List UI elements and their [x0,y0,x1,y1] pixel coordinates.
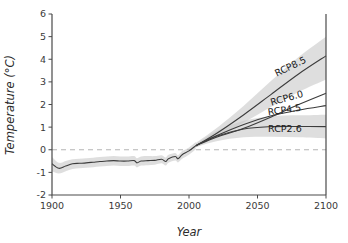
uncertainty-band-historical [52,142,196,173]
y-tick-label: 1 [40,122,46,133]
x-axis-title: Year [177,225,203,239]
y-tick-label: 4 [40,54,46,65]
y-tick-label: 0 [40,144,46,155]
y-tick-label: 3 [40,76,46,87]
chart-canvas: -2-1012345619001950200020502100 RCP8.5RC… [0,0,348,243]
x-tick-label: 2100 [314,200,338,211]
y-tick-label: 6 [40,8,46,19]
climate-projection-figure: -2-1012345619001950200020502100 RCP8.5RC… [0,0,348,243]
y-tick-label: -2 [37,189,46,200]
x-tick-label: 1900 [40,200,64,211]
y-tick-label: 2 [40,99,46,110]
x-tick-label: 2000 [177,200,201,211]
y-axis-title: Temperature (°C) [3,55,17,155]
y-tick-label: -1 [37,167,46,178]
x-tick-label: 2050 [245,200,269,211]
y-tick-label: 5 [40,31,46,42]
x-tick-label: 1950 [108,200,132,211]
series-label-rcp2-6: RCP2.6 [268,123,302,134]
